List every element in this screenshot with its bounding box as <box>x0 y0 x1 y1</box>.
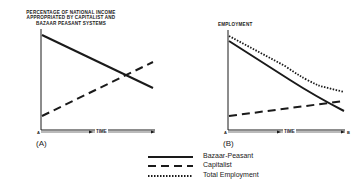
panel-b-series <box>229 36 344 116</box>
panel-b-total-employment-line <box>229 36 344 92</box>
panel-b-time-label: TIME <box>283 129 296 134</box>
legend-label-bazaar-peasant: Bazaar-Peasant <box>203 152 253 160</box>
panel-a-x-start-label: A <box>37 130 40 135</box>
panel-b-capitalist-line <box>229 101 344 116</box>
panel-b-x-start-label: A <box>224 130 227 135</box>
panel-a-series <box>42 35 153 116</box>
legend-swatches <box>148 157 193 176</box>
panel-a-time-label: TIME <box>95 129 108 134</box>
legend-label-total-employment: Total Employment <box>203 171 259 179</box>
panel-a-id: (A) <box>36 139 47 148</box>
panel-a-bazaar-peasant-line <box>42 35 153 88</box>
panel-b-id: (B) <box>223 139 234 148</box>
panel-b-x-end-label: B <box>347 130 350 135</box>
panel-a-capitalist-line <box>42 62 153 116</box>
panel-b-bazaar-peasant-line <box>229 41 344 111</box>
charts-canvas <box>0 0 360 188</box>
legend-label-capitalist: Capitalist <box>203 161 232 169</box>
